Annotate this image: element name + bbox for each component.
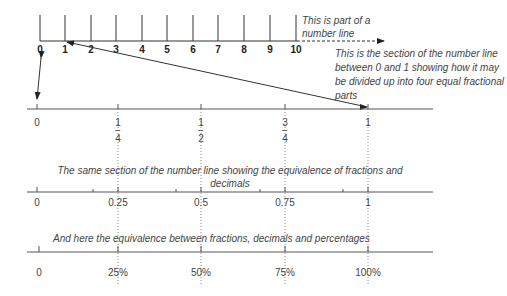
section-note: This is the section of the number line b… — [335, 47, 505, 103]
decimal-note: The same section of the number line show… — [45, 164, 415, 190]
tick-label: 3 — [113, 44, 119, 55]
decimal-label: 1 — [365, 197, 371, 208]
diagram-lines — [0, 0, 507, 296]
tick-label: 0 — [37, 44, 43, 55]
tick-label: 6 — [190, 44, 196, 55]
decimal-label: 0.5 — [194, 197, 208, 208]
fraction-one-quarter: 14 — [115, 117, 121, 144]
decimal-label: 0.25 — [108, 197, 127, 208]
fraction-one-half: 12 — [198, 117, 204, 144]
tick-label: 7 — [215, 44, 221, 55]
tick-label: 4 — [139, 44, 145, 55]
tick-label: 10 — [290, 44, 301, 55]
percent-label: 25% — [108, 267, 128, 278]
percent-label: 0 — [36, 267, 42, 278]
percent-label: 50% — [191, 267, 211, 278]
tick-label: 8 — [241, 44, 247, 55]
tick-label: 1 — [62, 44, 68, 55]
number-line-diagram: 0 1 2 3 4 5 6 7 8 9 10 This is part of a… — [0, 0, 507, 296]
percent-note: And here the equivalence between fractio… — [53, 232, 370, 245]
tick-label: 5 — [164, 44, 170, 55]
percent-label: 100% — [355, 267, 381, 278]
fraction-three-quarters: 34 — [282, 117, 288, 144]
fraction-label-1: 1 — [365, 117, 371, 128]
tick-label: 2 — [88, 44, 94, 55]
number-line-note: This is part of a number line — [302, 14, 402, 40]
tick-label: 9 — [267, 44, 273, 55]
decimal-label: 0 — [34, 197, 40, 208]
fraction-label-0: 0 — [34, 117, 40, 128]
percent-label: 75% — [275, 267, 295, 278]
decimal-label: 0.75 — [275, 197, 294, 208]
